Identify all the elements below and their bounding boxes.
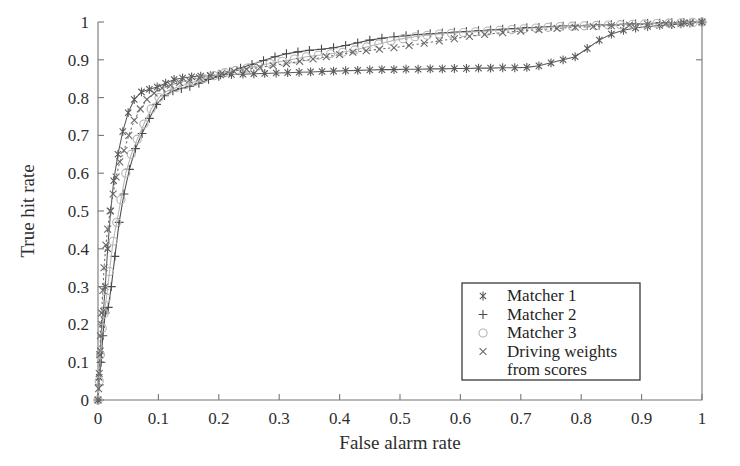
x-tick-label: 0.8 bbox=[571, 409, 592, 428]
chart-canvas: 00.10.20.30.40.50.60.70.80.9100.10.20.30… bbox=[0, 0, 740, 466]
y-tick-label: 0 bbox=[81, 391, 90, 410]
data-point-marker-asterisk bbox=[115, 150, 121, 159]
y-tick-label: 0.6 bbox=[68, 164, 89, 183]
data-point-marker-plus bbox=[282, 49, 291, 58]
x-tick-label: 0.7 bbox=[510, 409, 532, 428]
data-point-marker-cross bbox=[116, 158, 123, 165]
data-point-marker-asterisk bbox=[138, 88, 144, 97]
data-point-marker-asterisk bbox=[560, 55, 566, 64]
data-point-marker-cross bbox=[391, 44, 398, 51]
data-point-marker-cross bbox=[137, 106, 144, 113]
data-point-marker-cross bbox=[131, 117, 138, 124]
legend[interactable]: Matcher 1Matcher 2Matcher 3Driving weigh… bbox=[462, 283, 640, 380]
legend-label: from scores bbox=[507, 360, 587, 379]
data-point-marker-cross bbox=[151, 90, 158, 97]
y-tick-label: 0.1 bbox=[68, 353, 89, 372]
data-point-marker-asterisk bbox=[608, 30, 614, 39]
y-axis-title: True hit rate bbox=[17, 164, 38, 257]
data-point-marker-asterisk bbox=[596, 36, 602, 45]
x-tick-label: 0 bbox=[94, 409, 103, 428]
data-point-marker-cross bbox=[121, 147, 128, 154]
data-point-marker-cross bbox=[376, 46, 383, 53]
data-point-marker-asterisk bbox=[584, 44, 590, 53]
roc-chart-figure: 00.10.20.30.40.50.60.70.80.9100.10.20.30… bbox=[0, 0, 740, 466]
y-tick-label: 0.3 bbox=[68, 278, 89, 297]
x-tick-label: 0.5 bbox=[389, 409, 410, 428]
y-tick-label: 0.5 bbox=[68, 202, 89, 221]
y-tick-label: 1 bbox=[81, 13, 90, 32]
legend-label: Matcher 2 bbox=[507, 305, 576, 324]
x-tick-label: 0.6 bbox=[450, 409, 471, 428]
data-point-marker-cross bbox=[466, 33, 473, 40]
x-tick-label: 0.4 bbox=[329, 409, 351, 428]
data-point-marker-cross bbox=[143, 96, 150, 103]
data-point-marker-cross bbox=[125, 132, 132, 139]
data-point-marker-plus bbox=[138, 129, 147, 138]
data-point-marker-cross bbox=[310, 56, 317, 63]
data-point-marker-asterisk bbox=[125, 108, 131, 117]
x-tick-label: 0.3 bbox=[269, 409, 290, 428]
legend-label: Matcher 3 bbox=[507, 323, 576, 342]
data-point-marker-asterisk bbox=[548, 58, 554, 67]
y-tick-label: 0.2 bbox=[68, 315, 89, 334]
x-tick-label: 0.1 bbox=[148, 409, 169, 428]
y-tick-label: 0.9 bbox=[68, 51, 89, 70]
data-point-marker-cross bbox=[481, 31, 488, 38]
y-tick-label: 0.7 bbox=[68, 126, 90, 145]
data-point-marker-cross bbox=[590, 23, 597, 30]
data-point-marker-asterisk bbox=[131, 95, 137, 104]
data-point-marker-asterisk bbox=[146, 85, 152, 94]
x-axis-title: False alarm rate bbox=[339, 432, 460, 453]
x-tick-label: 0.9 bbox=[631, 409, 652, 428]
data-point-marker-cross bbox=[406, 42, 413, 49]
x-tick-label: 1 bbox=[698, 409, 707, 428]
y-tick-label: 0.8 bbox=[68, 89, 89, 108]
legend-label: Matcher 1 bbox=[507, 286, 576, 305]
legend-label: Driving weights bbox=[507, 342, 617, 361]
legend-item[interactable]: from scores bbox=[507, 360, 587, 379]
data-point-marker-asterisk bbox=[572, 52, 578, 61]
y-tick-label: 0.4 bbox=[68, 240, 90, 259]
data-point-marker-asterisk bbox=[120, 127, 126, 136]
x-tick-label: 0.2 bbox=[208, 409, 229, 428]
